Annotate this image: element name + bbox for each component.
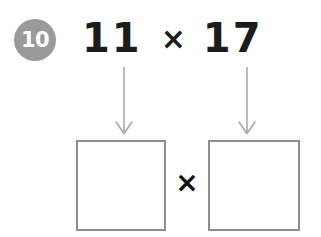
multiplication-sign-icon: ×	[172, 167, 202, 199]
problem-expression: 11 × 17	[82, 14, 272, 62]
answer-box-left[interactable]	[76, 140, 166, 231]
first-factor-label: 11	[82, 18, 142, 58]
down-arrow-icon	[235, 66, 259, 136]
multiplication-sign-icon: ×	[142, 24, 203, 54]
question-number-label: 10	[21, 30, 49, 51]
second-factor-label: 17	[203, 18, 263, 58]
answer-box-right[interactable]	[208, 140, 300, 231]
question-number-badge: 10	[14, 19, 56, 61]
down-arrow-icon	[112, 66, 136, 136]
